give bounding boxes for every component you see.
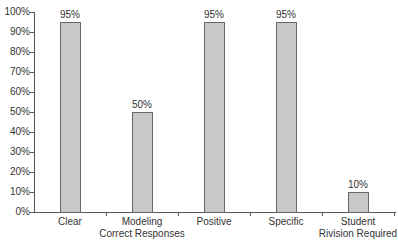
y-axis xyxy=(34,12,35,212)
bar-positive xyxy=(204,22,225,213)
bar-value-label: 50% xyxy=(117,99,167,110)
bar-value-label: 95% xyxy=(261,9,311,20)
y-tick-label: 30% xyxy=(10,147,30,157)
y-tick-mark xyxy=(30,72,34,73)
y-tick-mark xyxy=(30,52,34,53)
bar-specific xyxy=(276,22,297,213)
bar-chart: 95% 50% 95% 95% 10% Clear Modeling Corre… xyxy=(0,0,398,243)
y-tick-label: 70% xyxy=(10,67,30,77)
bar-modeling-correct-responses xyxy=(132,112,153,213)
y-tick-mark xyxy=(30,112,34,113)
y-tick-label: 40% xyxy=(10,127,30,137)
y-tick-mark xyxy=(30,172,34,173)
bar-student-rivision-required xyxy=(348,192,369,213)
y-tick-label: 0% xyxy=(16,207,30,217)
y-tick-label: 80% xyxy=(10,47,30,57)
y-tick-mark xyxy=(30,132,34,133)
bar-clear xyxy=(60,22,81,213)
y-tick-mark xyxy=(30,192,34,193)
bar-value-label: 95% xyxy=(189,9,239,20)
y-tick-mark xyxy=(30,92,34,93)
category-label: Student Rivision Required xyxy=(308,216,398,240)
y-tick-mark xyxy=(30,12,34,13)
y-tick-label: 60% xyxy=(10,87,30,97)
bar-value-label: 95% xyxy=(45,9,95,20)
y-tick-mark xyxy=(30,152,34,153)
y-tick-label: 20% xyxy=(10,167,30,177)
y-tick-mark xyxy=(30,32,34,33)
y-tick-label: 50% xyxy=(10,107,30,117)
y-tick-label: 100% xyxy=(4,7,30,17)
bar-value-label: 10% xyxy=(333,179,383,190)
y-tick-mark xyxy=(30,212,34,213)
y-tick-label: 10% xyxy=(10,187,30,197)
y-tick-label: 90% xyxy=(10,27,30,37)
